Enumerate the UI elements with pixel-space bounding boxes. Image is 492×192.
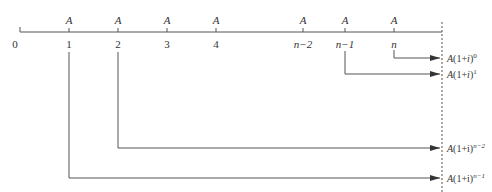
fv1-open: (1+: [453, 69, 467, 80]
payment-label-n: A: [391, 14, 398, 26]
flow-2-arrow: [118, 52, 440, 148]
fv2-body: (1+i): [453, 143, 473, 154]
flow-arrows: [69, 50, 440, 178]
tick-label-1: 1: [66, 38, 72, 50]
future-value-label-0: A(1+i)0: [447, 53, 477, 65]
tick-label-4: 4: [213, 38, 219, 50]
tick-label-2: 2: [115, 38, 121, 50]
fv2-exp-text: n−2: [473, 142, 485, 150]
fv0-exponent: 0: [473, 52, 477, 60]
tick-label-0: 0: [12, 38, 18, 50]
fv3-exp-text: n−1: [473, 172, 485, 180]
flow-n-arrow: [394, 50, 440, 58]
annuity-timeline-diagram: A A A A A A A 0 1 2 3 4 n−2 n−1 n A(1+i)…: [0, 0, 492, 192]
future-value-label-n-minus-1: A(1+i)n−1: [447, 173, 485, 185]
payment-label-2: A: [115, 14, 122, 26]
flow-1-arrow: [69, 52, 440, 178]
fv0-open: (1+: [453, 53, 467, 64]
payment-label-1: A: [66, 14, 73, 26]
tick-label-n-minus-2: n−2: [294, 38, 312, 50]
fv1-exponent: 1: [473, 68, 477, 76]
fv3-body: (1+i): [453, 173, 473, 184]
payment-label-4: A: [213, 14, 220, 26]
tick-label-n-minus-1: n−1: [336, 38, 354, 50]
fv3-exponent: n−1: [473, 172, 485, 180]
timeline-axis: [20, 27, 442, 32]
future-value-label-n-minus-2: A(1+i)n−2: [447, 143, 485, 155]
payment-label-3: A: [164, 14, 171, 26]
tick-label-3: 3: [164, 38, 170, 50]
flow-n1-arrow: [345, 51, 440, 74]
tick-label-n: n: [391, 38, 397, 50]
fv2-exponent: n−2: [473, 142, 485, 150]
payment-label-n1: A: [342, 14, 349, 26]
future-value-label-1: A(1+i)1: [447, 69, 477, 81]
payment-label-n2: A: [300, 14, 307, 26]
diagram-lines: [0, 0, 492, 192]
